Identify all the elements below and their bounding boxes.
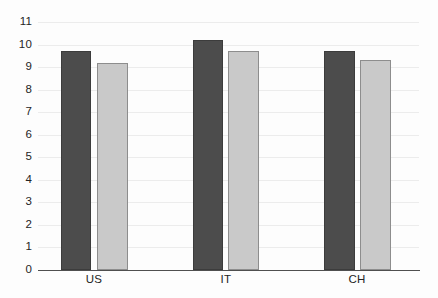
y-axis-tick-label: 0 — [4, 264, 32, 276]
y-axis-tick-label: 3 — [4, 196, 32, 208]
y-axis-tick-label: 2 — [4, 219, 32, 231]
bar-ch-series-2 — [360, 60, 391, 270]
gridline — [38, 45, 419, 46]
y-axis-tick-label: 1 — [4, 241, 32, 253]
bar-ch-series-1 — [324, 51, 355, 270]
bar-chart: 01234567891011 USITCH — [0, 0, 438, 298]
x-axis-line — [38, 270, 420, 272]
y-axis-tick-label: 8 — [4, 84, 32, 96]
y-axis-tick-label: 5 — [4, 151, 32, 163]
bar-it-series-2 — [228, 51, 259, 270]
bar-us-series-1 — [61, 51, 91, 270]
x-axis-tick-label-ch: CH — [348, 274, 365, 286]
y-axis-tick-label: 11 — [4, 16, 32, 28]
y-axis-tick-label: 9 — [4, 61, 32, 73]
x-axis-tick-label-us: US — [86, 274, 103, 286]
x-axis-tick-label-it: IT — [221, 274, 232, 286]
y-axis-tick-label: 4 — [4, 174, 32, 186]
bar-us-series-2 — [97, 63, 128, 270]
y-axis-tick-label: 7 — [4, 106, 32, 118]
gridline — [38, 22, 419, 23]
bar-it-series-1 — [193, 40, 223, 270]
y-axis-tick-label: 6 — [4, 129, 32, 141]
y-axis-tick-label: 10 — [4, 39, 32, 51]
